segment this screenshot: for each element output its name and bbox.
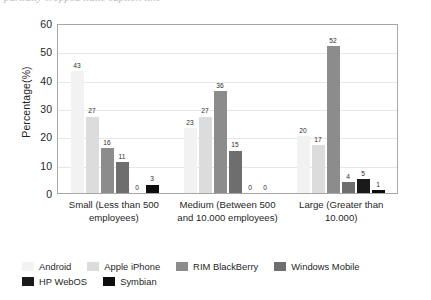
bar-value-label: 52 (329, 38, 336, 45)
legend-item[interactable]: Symbian (103, 276, 156, 287)
bar-value-label: 27 (88, 108, 95, 115)
bar-item[interactable]: 23 (184, 25, 197, 193)
bar-item[interactable]: 11 (116, 25, 129, 193)
bars: 201752451 (284, 25, 397, 193)
bar-value-label: 1 (376, 182, 380, 189)
y-tick-label: 40 (24, 75, 52, 87)
bar-group: 2327361500 (171, 25, 284, 193)
bar[interactable] (116, 162, 129, 193)
bar-item[interactable]: 27 (86, 25, 99, 193)
x-axis-category-label: Medium (Between 500 and 10.000 employees… (171, 199, 285, 224)
bar-value-label: 20 (299, 128, 306, 135)
bar-value-label: 15 (231, 142, 238, 149)
y-tick-label: 10 (24, 160, 52, 172)
x-axis-category-labels: Small (Less than 500 employees)Medium (B… (57, 199, 398, 224)
bar-item[interactable]: 16 (101, 25, 114, 193)
bar-item[interactable]: 1 (372, 25, 385, 193)
bar[interactable] (229, 151, 242, 194)
bar[interactable] (327, 46, 340, 193)
legend-swatch (176, 262, 188, 271)
bars: 4327161103 (58, 25, 171, 193)
bar[interactable] (297, 136, 310, 193)
bar-group: 201752451 (284, 25, 397, 193)
bar-item[interactable]: 15 (229, 25, 242, 193)
bar-value-label: 23 (186, 120, 193, 127)
x-axis-category-label: Small (Less than 500 employees) (57, 199, 171, 224)
x-axis-category-label: Large (Greater than 10.000) (284, 199, 398, 224)
y-tick-label: 30 (24, 103, 52, 115)
y-tick-label: 20 (24, 131, 52, 143)
bar-value-label: 5 (361, 171, 365, 178)
bar[interactable] (214, 91, 227, 193)
bar-item[interactable]: 36 (214, 25, 227, 193)
bar-value-label: 0 (248, 185, 252, 192)
legend-label: Symbian (120, 276, 156, 287)
bar[interactable] (312, 145, 325, 193)
bar-value-label: 0 (135, 185, 139, 192)
bar[interactable] (86, 117, 99, 194)
bar-item[interactable]: 17 (312, 25, 325, 193)
bar[interactable] (184, 128, 197, 193)
bar-value-label: 11 (119, 154, 126, 161)
bar-group: 4327161103 (58, 25, 171, 193)
bar[interactable] (101, 148, 114, 193)
bar-value-label: 17 (314, 137, 321, 144)
bar-value-label: 27 (201, 108, 208, 115)
bar[interactable] (342, 182, 355, 193)
bar-item[interactable]: 27 (199, 25, 212, 193)
bar-item[interactable]: 0 (259, 25, 272, 193)
bar-value-label: 16 (103, 140, 110, 147)
legend-label: Apple iPhone (104, 261, 160, 272)
bar-item[interactable]: 5 (357, 25, 370, 193)
legend-swatch (22, 262, 34, 271)
y-tick-label: 0 (24, 188, 52, 200)
bar[interactable] (357, 179, 370, 193)
legend-label: Android (39, 261, 71, 272)
bar-item[interactable]: 20 (297, 25, 310, 193)
y-tick-label: 50 (24, 46, 52, 58)
legend-swatch (87, 262, 99, 271)
legend-item[interactable]: HP WebOS (22, 276, 87, 287)
bar-value-label: 36 (216, 83, 223, 90)
legend-item[interactable]: Windows Mobile (274, 261, 359, 272)
bar[interactable] (372, 190, 385, 193)
bar-item[interactable]: 0 (244, 25, 257, 193)
bar-value-label: 43 (73, 63, 80, 70)
bar-value-label: 4 (346, 174, 350, 181)
legend-item[interactable]: Android (22, 261, 71, 272)
bar-item[interactable]: 52 (327, 25, 340, 193)
y-tick-label: 60 (24, 18, 52, 30)
legend-swatch (22, 277, 34, 286)
y-axis-tick-labels: 0102030405060 (24, 24, 52, 194)
bar[interactable] (146, 185, 159, 194)
legend-item[interactable]: Apple iPhone (87, 261, 160, 272)
bar-value-label: 0 (263, 185, 267, 192)
bar-item[interactable]: 0 (131, 25, 144, 193)
bar-item[interactable]: 43 (71, 25, 84, 193)
legend-label: RIM BlackBerry (193, 261, 258, 272)
legend-swatch (274, 262, 286, 271)
bar-groups: 43271611032327361500201752451 (58, 25, 397, 193)
legend-item[interactable]: RIM BlackBerry (176, 261, 258, 272)
bar[interactable] (199, 117, 212, 194)
legend-swatch (103, 277, 115, 286)
legend-label: Windows Mobile (291, 261, 359, 272)
grouped-bar-chart: Percentage(%) 0102030405060 432716110323… (0, 0, 431, 300)
plot-area: 43271611032327361500201752451 (57, 24, 398, 194)
bar-value-label: 3 (150, 176, 154, 183)
bar-item[interactable]: 3 (146, 25, 159, 193)
chart-legend: AndroidApple iPhoneRIM BlackBerryWindows… (22, 261, 422, 287)
bar-item[interactable]: 4 (342, 25, 355, 193)
legend-label: HP WebOS (39, 276, 87, 287)
bars: 2327361500 (171, 25, 284, 193)
bar[interactable] (71, 71, 84, 193)
